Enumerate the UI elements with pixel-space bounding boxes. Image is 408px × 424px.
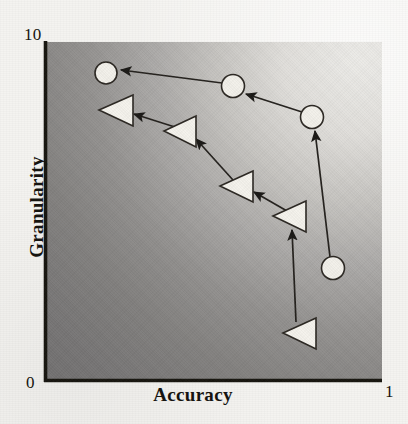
x-axis-title: Accuracy	[118, 384, 268, 406]
circle-marker-c1	[95, 62, 117, 84]
plot-area-background	[44, 42, 382, 382]
circle-marker-c3	[301, 106, 324, 129]
x-axis-max-tick-label: 1	[385, 383, 394, 400]
circle-marker-c2	[222, 75, 245, 98]
chart-figure: 10 0 1 Accuracy Granularity	[0, 0, 408, 424]
plot-svg	[0, 0, 408, 424]
y-axis-title: Granularity	[26, 137, 48, 277]
y-axis-max-tick-label: 10	[24, 26, 41, 43]
circle-marker-c4	[322, 257, 345, 280]
y-axis-min-tick-label: 0	[26, 374, 35, 391]
